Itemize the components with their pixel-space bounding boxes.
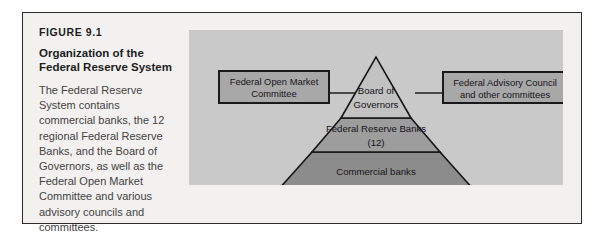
- tier-middle-label-line-2: (12): [367, 137, 384, 148]
- advisory-council-box-label-line-2: and other committees: [460, 89, 550, 100]
- advisory-council-box-label-line-1: Federal Advisory Council: [453, 77, 557, 88]
- figure-title-line-2: Federal Reserve System: [39, 61, 172, 73]
- tier-top-label-line-1: Board of: [358, 85, 395, 96]
- diagram-panel: Board of Governors Federal Reserve Banks…: [189, 30, 563, 185]
- tier-middle-label-line-1: Federal Reserve Banks: [326, 123, 426, 134]
- tier-bottom-label: Commercial banks: [336, 166, 416, 177]
- fomc-box-label-line-1: Federal Open Market: [230, 76, 319, 87]
- figure-body-text: The Federal Reserve System contains comm…: [39, 83, 175, 235]
- figure-card: FIGURE 9.1 Organization of the Federal R…: [22, 12, 582, 224]
- federal-reserve-organization-diagram: Board of Governors Federal Reserve Banks…: [189, 30, 563, 185]
- figure-title: Organization of the Federal Reserve Syst…: [39, 46, 175, 74]
- figure-number-label: FIGURE 9.1: [39, 26, 175, 39]
- tier-top-label-line-2: Governors: [354, 99, 399, 110]
- fomc-box-label-line-2: Committee: [251, 88, 296, 99]
- figure-title-line-1: Organization of the: [39, 47, 144, 59]
- figure-caption-panel: FIGURE 9.1 Organization of the Federal R…: [23, 13, 187, 223]
